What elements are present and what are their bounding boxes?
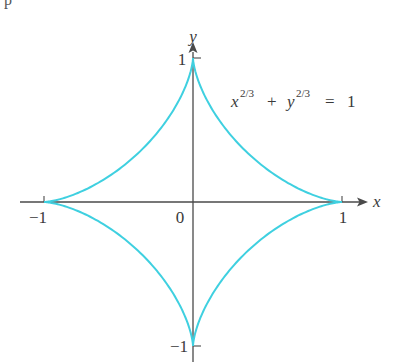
svg-text:1: 1: [347, 92, 356, 111]
x-tick-label-pos1: 1: [339, 208, 348, 227]
x-axis-label: x: [372, 192, 381, 211]
y-tick-label-pos1: 1: [178, 50, 187, 69]
astroid-figure: y x 1 −1 −1 1 0 x 2/3 + y 2/3 = 1: [0, 0, 393, 363]
y-axis-label: y: [187, 27, 197, 46]
svg-text:2/3: 2/3: [296, 87, 311, 99]
axes: [20, 42, 368, 362]
equation-label: x 2/3 + y 2/3 = 1: [230, 87, 356, 111]
svg-text:2/3: 2/3: [240, 87, 255, 99]
svg-text:+: +: [267, 92, 277, 111]
origin-label: 0: [176, 208, 185, 227]
svg-text:y: y: [285, 92, 295, 111]
x-tick-label-neg1: −1: [29, 208, 47, 227]
svg-text:x: x: [230, 92, 239, 111]
svg-text:=: =: [325, 92, 335, 111]
y-tick-label-neg1: −1: [170, 337, 188, 356]
